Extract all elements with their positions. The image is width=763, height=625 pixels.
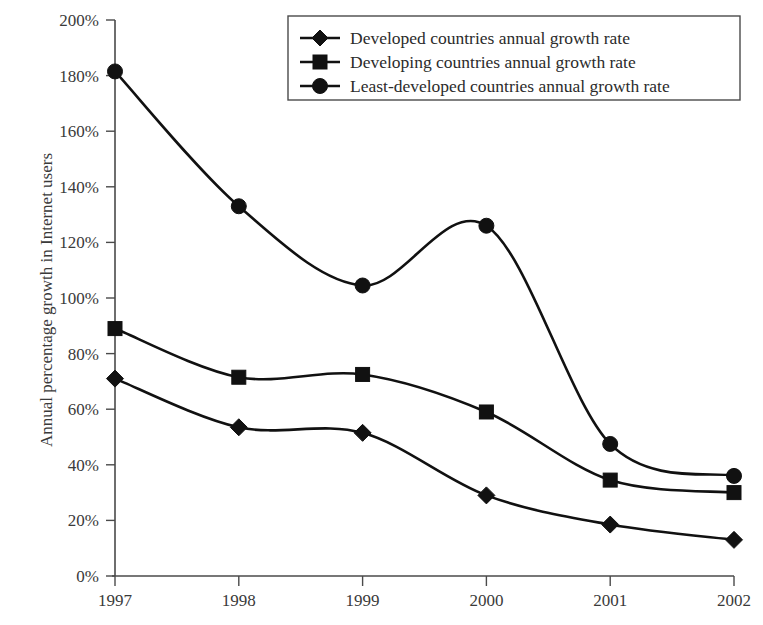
y-tick-label: 60% [68, 400, 99, 419]
circle-marker [603, 436, 618, 451]
square-marker [727, 486, 741, 500]
chart-legend: Developed countries annual growth rate D… [288, 16, 740, 100]
x-tick-label: 1999 [346, 591, 380, 610]
legend-label: Developing countries annual growth rate [350, 52, 636, 72]
square-marker [603, 473, 617, 487]
y-tick-label: 160% [59, 122, 99, 141]
square-marker [232, 370, 246, 384]
x-tick-label: 2000 [469, 591, 503, 610]
circle-marker [108, 64, 123, 79]
x-tick-label: 1997 [98, 591, 133, 610]
y-tick-label: 0% [76, 567, 99, 586]
x-tick-label: 2002 [717, 591, 751, 610]
y-tick-label: 140% [59, 178, 99, 197]
square-marker [356, 367, 370, 381]
legend-entry-developed[interactable]: Developed countries annual growth rate [300, 28, 630, 48]
circle-marker [727, 468, 742, 483]
x-tick-label: 2001 [593, 591, 627, 610]
y-tick-label: 80% [68, 345, 99, 364]
y-axis-title: Annual percentage growth in Internet use… [37, 153, 56, 447]
square-marker [479, 405, 493, 419]
x-tick-label: 1998 [222, 591, 256, 610]
circle-marker-icon [313, 79, 328, 94]
circle-marker [231, 199, 246, 214]
legend-entry-developing[interactable]: Developing countries annual growth rate [300, 52, 636, 72]
circle-marker [355, 278, 370, 293]
square-marker [108, 322, 122, 336]
legend-label: Developed countries annual growth rate [350, 28, 630, 48]
y-tick-label: 120% [59, 233, 99, 252]
circle-marker [479, 218, 494, 233]
y-tick-label: 180% [59, 67, 99, 86]
square-marker-icon [313, 55, 327, 69]
line-chart: Annual percentage growth in Internet use… [0, 0, 763, 625]
chart-container: Annual percentage growth in Internet use… [0, 0, 763, 625]
y-tick-label: 20% [68, 511, 99, 530]
legend-entry-least-developed[interactable]: Least-developed countries annual growth … [300, 76, 670, 96]
y-tick-label: 40% [68, 456, 99, 475]
y-tick-label: 100% [59, 289, 99, 308]
legend-label: Least-developed countries annual growth … [350, 76, 670, 96]
y-tick-label: 200% [59, 11, 99, 30]
